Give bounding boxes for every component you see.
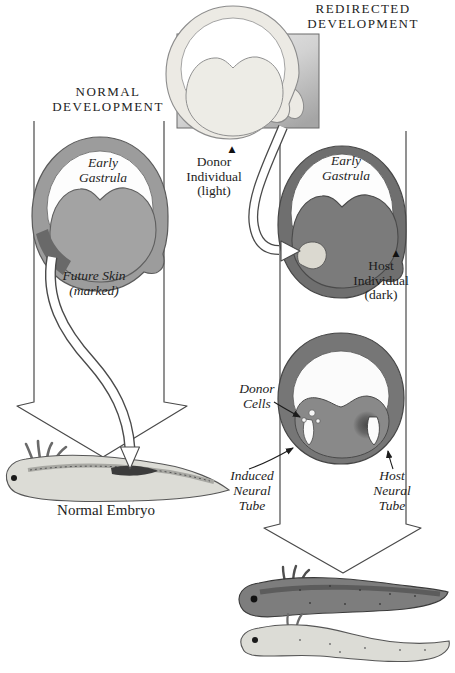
host-pointer-icon: ▲ [393,249,400,258]
host-tube-line3: Tube [373,498,411,513]
induced-tube-line2: Neural [230,483,273,498]
donor-label-line2: Individual [186,170,242,185]
dark-embryo-eye [251,596,258,603]
host-label-line2: Individual [353,274,409,289]
redirected-heading-line1: REDIRECTED [307,1,418,16]
normal-heading-line1: NORMAL [52,84,163,99]
light-embryo-eye [252,637,258,643]
future-skin-line1: Future Skin [63,268,126,283]
donor-pointer-icon: ▲ [229,145,236,154]
induced-tube-line1: Induced [230,468,273,483]
embryo-eye [11,475,17,481]
donor-cells-line2: Cells [239,396,274,411]
redirected-heading: REDIRECTED DEVELOPMENT [307,1,418,31]
induced-neural-tube-label: Induced Neural Tube [230,468,273,513]
early-gastrula-right-line2: Gastrula [322,168,370,183]
neurula [278,333,404,464]
host-neural-tube-label: Host Neural Tube [373,468,411,513]
donor-cells-label: Donor Cells [239,381,274,411]
early-gastrula-left-line1: Early [79,155,127,170]
early-gastrula-right-line1: Early [322,153,370,168]
dark-embryo-body [239,578,448,617]
host-individual-label: Host Individual (dark) [353,259,409,303]
induced-tube-line3: Tube [230,498,273,513]
donor-gastrula [166,6,307,139]
figure: NORMAL DEVELOPMENT REDIRECTED DEVELOPMEN… [0,0,455,673]
donor-individual-label: Donor Individual (light) [186,155,242,199]
donor-label-line1: Donor [186,155,242,170]
donor-label-line3: (light) [186,184,242,199]
donor-cells-line1: Donor [239,381,274,396]
light-embryo-body [241,625,449,662]
host-label-line3: (dark) [353,288,409,303]
early-gastrula-left-line2: Gastrula [79,170,127,185]
host-tube-line1: Host [373,468,411,483]
redirected-heading-line2: DEVELOPMENT [307,16,418,31]
early-gastrula-label-right: Early Gastrula [322,153,370,183]
host-tube-line2: Neural [373,483,411,498]
future-skin-label: Future Skin (marked) [63,268,126,298]
host-label-line1: Host [353,259,409,274]
normal-embryo-illustration [6,441,229,502]
early-gastrula-label-left: Early Gastrula [79,155,127,185]
graft-patch [298,242,327,269]
normal-heading-line2: DEVELOPMENT [52,99,163,114]
normal-embryo-caption: Normal Embryo [57,503,155,518]
normal-heading: NORMAL DEVELOPMENT [52,84,163,114]
donor-gastrula-mass [186,57,283,136]
twin-embryos-illustration [239,566,449,662]
future-skin-line2: (marked) [63,283,126,298]
